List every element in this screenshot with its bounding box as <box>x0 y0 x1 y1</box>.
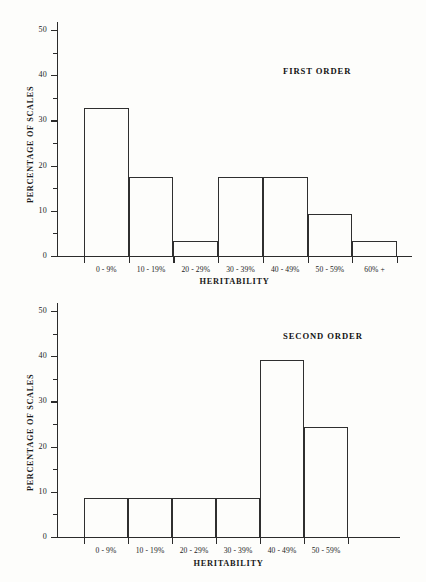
y-tick-major <box>51 492 57 493</box>
series-title: SECOND ORDER <box>283 331 363 341</box>
y-tick-major <box>51 256 57 257</box>
x-tick-label: 60% + <box>346 266 403 274</box>
y-tick-major <box>51 401 57 402</box>
x-tick <box>260 538 261 544</box>
histogram-bar[interactable] <box>128 498 172 537</box>
y-tick-minor <box>53 379 57 380</box>
y-tick-major <box>51 211 57 212</box>
series-title: FIRST ORDER <box>283 66 351 76</box>
x-tick <box>218 257 219 263</box>
y-axis-title: PERCENTAGE OF SCALES <box>26 374 35 491</box>
y-axis-line <box>57 22 58 257</box>
y-axis-line <box>57 303 58 538</box>
plot-area-first-order: 010203040500 - 9%10 - 19%20 - 29%30 - 39… <box>0 0 426 291</box>
x-tick <box>304 538 305 544</box>
x-tick-label: 50 - 59% <box>298 547 354 555</box>
y-tick-minor <box>53 98 57 99</box>
x-tick <box>397 257 398 263</box>
histogram-bar[interactable] <box>263 177 308 256</box>
histogram-bar[interactable] <box>84 498 128 537</box>
histogram-bar[interactable] <box>173 241 218 256</box>
histogram-bar[interactable] <box>84 108 129 256</box>
x-axis-title: HERITABILITY <box>57 559 400 568</box>
x-tick <box>263 257 264 263</box>
y-tick-major <box>51 311 57 312</box>
x-tick <box>84 257 85 263</box>
y-tick-minor <box>53 143 57 144</box>
y-tick-minor <box>53 469 57 470</box>
x-axis-line <box>57 256 412 257</box>
histogram-bar[interactable] <box>352 241 397 256</box>
y-tick-label: 0 <box>29 252 47 260</box>
y-tick-label: 50 <box>29 307 47 315</box>
figure-page: 010203040500 - 9%10 - 19%20 - 29%30 - 39… <box>0 0 426 582</box>
y-tick-major <box>51 75 57 76</box>
histogram-bar[interactable] <box>304 427 348 537</box>
histogram-bar[interactable] <box>216 498 260 537</box>
plot-area-second-order: 010203040500 - 9%10 - 19%20 - 29%30 - 39… <box>0 291 426 582</box>
histogram-bar[interactable] <box>308 214 353 256</box>
x-tick <box>173 257 174 263</box>
y-tick-major <box>51 356 57 357</box>
y-tick-major <box>51 447 57 448</box>
chart-panel-first-order: 010203040500 - 9%10 - 19%20 - 29%30 - 39… <box>0 0 426 291</box>
y-tick-major <box>51 30 57 31</box>
x-tick <box>172 538 173 544</box>
y-tick-minor <box>53 53 57 54</box>
x-tick <box>308 257 309 263</box>
histogram-bar[interactable] <box>218 177 263 256</box>
x-tick <box>216 538 217 544</box>
y-tick-major <box>51 120 57 121</box>
x-tick <box>348 538 349 544</box>
x-tick <box>129 257 130 263</box>
histogram-bar[interactable] <box>129 177 174 256</box>
y-tick-label: 40 <box>29 352 47 360</box>
y-tick-label: 0 <box>29 533 47 541</box>
x-tick <box>128 538 129 544</box>
histogram-bar[interactable] <box>172 498 216 537</box>
y-tick-minor <box>53 188 57 189</box>
x-tick <box>84 538 85 544</box>
chart-panel-second-order: 010203040500 - 9%10 - 19%20 - 29%30 - 39… <box>0 291 426 582</box>
y-tick-minor <box>53 233 57 234</box>
y-tick-label: 50 <box>29 26 47 34</box>
y-tick-label: 40 <box>29 71 47 79</box>
y-tick-label: 10 <box>29 207 47 215</box>
y-tick-minor <box>53 514 57 515</box>
y-tick-minor <box>53 334 57 335</box>
y-tick-major <box>51 166 57 167</box>
y-tick-major <box>51 537 57 538</box>
y-axis-title: PERCENTAGE OF SCALES <box>26 86 35 203</box>
y-tick-minor <box>53 424 57 425</box>
x-tick <box>352 257 353 263</box>
x-axis-title: HERITABILITY <box>57 277 412 286</box>
histogram-bar[interactable] <box>260 360 304 537</box>
